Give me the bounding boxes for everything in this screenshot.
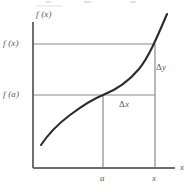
delta-y-annotation: Δy [156,63,166,72]
delta-x-variable: x [125,99,129,109]
x-axis-label: x [180,163,184,172]
x-tick-label-a: a [100,174,105,183]
delta-y-variable: y [162,62,166,72]
graph-canvas [0,0,191,192]
x-tick-label-x: x [152,174,156,183]
function-curve [41,14,167,145]
delta-x-annotation: Δx [119,100,129,109]
y-tick-label-fa: f (a) [3,90,19,99]
function-graph-figure: f (x) f (x) f (a) a x x Δy Δx [0,0,191,192]
y-axis-label: f (x) [36,10,52,19]
y-tick-label-fx: f (x) [3,39,19,48]
